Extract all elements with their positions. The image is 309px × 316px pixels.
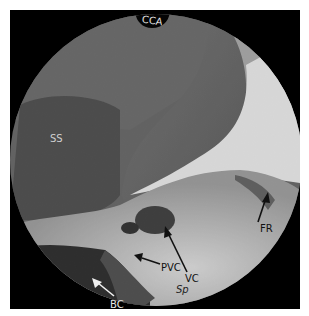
image-frame: CCA SS FR PVC VC Sp BC xyxy=(10,10,300,309)
label-ss: SS xyxy=(50,133,63,144)
label-bc: BC xyxy=(110,299,124,309)
endoscopic-view: CCA SS FR PVC VC Sp BC xyxy=(10,10,300,309)
label-pvc: PVC xyxy=(161,262,181,273)
circular-view xyxy=(10,10,300,309)
label-fr: FR xyxy=(260,223,273,234)
label-vc: VC xyxy=(185,273,199,284)
label-sp: Sp xyxy=(176,284,189,295)
